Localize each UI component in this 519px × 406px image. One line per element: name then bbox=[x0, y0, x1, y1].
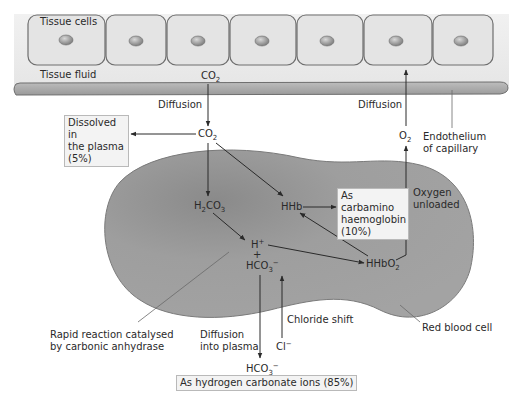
nucleus-icon bbox=[454, 36, 468, 46]
diffusion-into-plasma-label: Diffusion into plasma bbox=[200, 329, 259, 353]
nucleus-icon bbox=[255, 36, 269, 46]
o2-label: O2 bbox=[399, 130, 411, 142]
carbonic-anhydrase-label: Rapid reaction catalysed by carbonic anh… bbox=[50, 329, 174, 353]
oxygen-unloaded-label: Oxygen unloaded bbox=[413, 187, 460, 211]
chloride-shift-label: Chloride shift bbox=[287, 314, 353, 326]
diffusion-right-label: Diffusion bbox=[358, 99, 402, 111]
hco3-plasma-label: HCO3− bbox=[246, 363, 279, 375]
tissue-cells-label: Tissue cells bbox=[40, 16, 97, 28]
nucleus-icon bbox=[59, 35, 73, 45]
hco3-rbc-label: HCO3− bbox=[246, 260, 279, 272]
endothelium-label: Endothelium of capillary bbox=[423, 131, 486, 155]
diffusion-left-label: Diffusion bbox=[158, 99, 202, 111]
nucleus-icon bbox=[389, 36, 403, 46]
dissolved-plasma-box: Dissolved in the plasma (5%) bbox=[64, 115, 129, 167]
tissue-fluid-label: Tissue fluid bbox=[40, 69, 96, 81]
chloride-ion-label: Cl− bbox=[276, 341, 292, 353]
co2-plasma-label: CO2 bbox=[198, 128, 217, 140]
hydrogen-carbonate-box: As hydrogen carbonate ions (85%) bbox=[176, 375, 357, 391]
capillary-endothelium bbox=[14, 82, 508, 95]
carbamino-box: As carbamino haemoglobin (10%) bbox=[337, 188, 409, 240]
nucleus-icon bbox=[129, 36, 143, 46]
hhbo2-label: HHbO2 bbox=[366, 258, 400, 270]
co2-tissue-label: CO2 bbox=[201, 70, 220, 82]
hhb-label: HHb bbox=[281, 201, 302, 213]
nucleus-icon bbox=[191, 36, 205, 46]
nucleus-icon bbox=[320, 36, 334, 46]
red-blood-cell-shape bbox=[105, 150, 474, 317]
h2co3-label: H2CO3 bbox=[194, 200, 225, 212]
red-blood-cell-label: Red blood cell bbox=[422, 322, 492, 334]
